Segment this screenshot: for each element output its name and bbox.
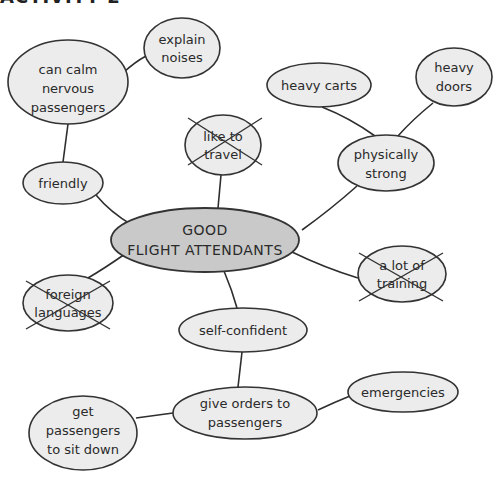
center-label: FLIGHT ATTENDANTS xyxy=(127,242,283,258)
center-label: GOOD xyxy=(182,222,228,238)
node-heavy-carts: heavy carts xyxy=(267,63,371,107)
node-label: give orders to xyxy=(200,396,290,411)
node-label: emergencies xyxy=(361,385,445,400)
node-label: foreign xyxy=(45,287,91,302)
node-label: a lot of xyxy=(379,258,425,273)
node-label: passengers xyxy=(208,415,283,430)
node-label: nervous xyxy=(42,81,94,96)
node-friendly: friendly xyxy=(23,162,103,204)
center-topic: GOOD FLIGHT ATTENDANTS xyxy=(111,208,299,272)
node-give-orders: give orders to passengers xyxy=(173,387,317,439)
edge-friendly-center xyxy=(96,195,132,225)
edge-doors-strong xyxy=(398,103,433,136)
node-self-confident: self-confident xyxy=(179,308,307,352)
node-explain-noises: explain noises xyxy=(144,18,220,78)
node-label: to sit down xyxy=(47,442,119,457)
edge-strong-center xyxy=(302,186,357,230)
node-label: heavy carts xyxy=(281,78,357,93)
node-label: explain xyxy=(158,32,205,47)
node-label: self-confident xyxy=(199,323,287,338)
node-sit-down: get passengers to sit down xyxy=(29,396,137,470)
node-label: passengers xyxy=(31,100,106,115)
node-emergencies: emergencies xyxy=(348,372,458,412)
node-label: get xyxy=(72,404,93,419)
node-label: doors xyxy=(436,79,473,94)
edge-orders-emergencies xyxy=(318,396,350,410)
node-label: strong xyxy=(365,166,406,181)
mind-map: explain noises can calm nervous passenge… xyxy=(0,0,504,486)
edge-travel-center xyxy=(218,175,221,208)
node-physically-strong: physically strong xyxy=(338,135,434,191)
node-label: can calm xyxy=(39,62,98,77)
edge-calm-explain xyxy=(124,56,146,72)
edge-carts-strong xyxy=(322,107,375,136)
node-label: passengers xyxy=(46,423,121,438)
node-heavy-doors: heavy doors xyxy=(416,48,492,106)
edge-center-confident xyxy=(224,271,237,308)
node-label: friendly xyxy=(38,176,88,191)
node-label: noises xyxy=(161,50,203,65)
node-foreign-languages: foreign languages xyxy=(23,275,113,331)
node-like-to-travel: like to travel xyxy=(185,115,262,175)
node-calm-passengers: can calm nervous passengers xyxy=(8,40,128,124)
edge-center-training xyxy=(292,252,358,278)
node-lot-of-training: a lot of training xyxy=(358,246,446,302)
edge-confident-orders xyxy=(238,352,242,387)
edge-orders-sitdown xyxy=(136,413,173,418)
edge-center-languages xyxy=(88,254,125,278)
edge-calm-friendly xyxy=(63,124,68,162)
node-label: physically xyxy=(354,147,419,162)
node-label: heavy xyxy=(434,60,474,75)
